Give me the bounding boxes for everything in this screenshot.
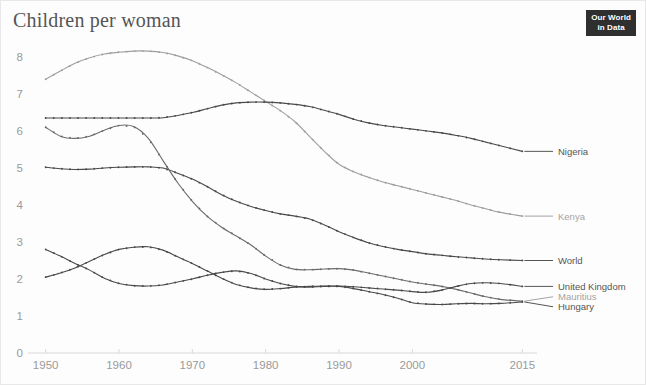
series-point-marker <box>279 213 281 215</box>
series-point-marker <box>182 113 184 115</box>
series-point-marker <box>207 216 209 218</box>
series-point-marker <box>271 102 273 104</box>
series-point-marker <box>150 50 152 52</box>
series-point-marker <box>69 137 71 139</box>
series-label-hungary[interactable]: Hungary <box>558 301 594 312</box>
series-point-marker <box>320 223 322 225</box>
series-point-marker <box>231 103 233 105</box>
series-point-marker <box>215 106 217 108</box>
series-point-marker <box>474 138 476 140</box>
series-point-marker <box>215 274 217 276</box>
series-point-marker <box>385 125 387 127</box>
chart-container: Children per woman Our World in Data 012… <box>0 0 646 385</box>
line-chart-plot: 012345678 1950196019701980199020002015 N… <box>1 1 646 385</box>
series-point-marker <box>85 168 87 170</box>
series-point-marker <box>126 247 128 249</box>
series-point-marker <box>474 205 476 207</box>
series-point-marker <box>198 266 200 268</box>
series-point-marker <box>118 51 120 53</box>
series-point-marker <box>93 133 95 135</box>
series-united-kingdom[interactable] <box>45 246 524 293</box>
series-label-united-kingdom[interactable]: United Kingdom <box>558 281 626 292</box>
series-point-marker <box>279 288 281 290</box>
series-point-marker <box>457 285 459 287</box>
series-point-marker <box>101 117 103 119</box>
y-axis-tick-label: 6 <box>17 125 23 137</box>
series-point-marker <box>296 122 298 124</box>
y-axis-tick-label: 1 <box>17 310 23 322</box>
series-point-marker <box>247 286 249 288</box>
series-point-marker <box>166 116 168 118</box>
series-point-marker <box>223 227 225 229</box>
series-point-marker <box>158 167 160 169</box>
series-point-marker <box>320 147 322 149</box>
series-point-marker <box>263 254 265 256</box>
series-mauritius[interactable] <box>45 125 524 302</box>
series-nigeria[interactable] <box>45 101 524 152</box>
series-point-marker <box>207 186 209 188</box>
series-point-marker <box>45 117 47 119</box>
y-axis-tick-label: 4 <box>17 199 24 211</box>
series-point-marker <box>134 285 136 287</box>
series-point-marker <box>182 57 184 59</box>
series-point-marker <box>457 200 459 202</box>
series-point-marker <box>466 303 468 305</box>
series-point-marker <box>150 141 152 143</box>
series-point-marker <box>401 279 403 281</box>
series-point-marker <box>336 162 338 164</box>
series-point-marker <box>61 135 63 137</box>
series-point-marker <box>174 54 176 56</box>
series-point-marker <box>376 244 378 246</box>
series-point-marker <box>441 286 443 288</box>
series-point-marker <box>328 268 330 270</box>
series-point-marker <box>142 50 144 52</box>
series-point-marker <box>223 271 225 273</box>
series-point-marker <box>239 284 241 286</box>
series-point-marker <box>344 166 346 168</box>
series-point-marker <box>45 126 47 128</box>
series-point-marker <box>304 269 306 271</box>
series-point-marker <box>498 144 500 146</box>
series-kenya[interactable] <box>45 50 524 217</box>
series-point-marker <box>45 166 47 168</box>
series-line-path <box>46 167 523 261</box>
series-point-marker <box>509 213 511 215</box>
series-point-marker <box>190 178 192 180</box>
series-point-marker <box>109 52 111 54</box>
series-point-marker <box>53 274 55 276</box>
series-point-marker <box>498 211 500 213</box>
series-point-marker <box>263 277 265 279</box>
series-point-marker <box>433 254 435 256</box>
series-point-marker <box>466 257 468 259</box>
series-point-marker <box>409 281 411 283</box>
series-point-marker <box>198 182 200 184</box>
series-point-marker <box>77 264 79 266</box>
series-label-leader <box>524 302 553 307</box>
series-world[interactable] <box>45 166 524 262</box>
series-point-marker <box>417 282 419 284</box>
series-point-marker <box>401 127 403 129</box>
series-point-marker <box>449 198 451 200</box>
series-point-marker <box>271 288 273 290</box>
series-point-marker <box>425 303 427 305</box>
series-point-marker <box>231 232 233 234</box>
series-point-marker <box>368 287 370 289</box>
series-point-marker <box>247 272 249 274</box>
series-point-marker <box>263 209 265 211</box>
series-point-marker <box>352 269 354 271</box>
series-point-marker <box>271 105 273 107</box>
series-point-marker <box>69 269 71 271</box>
series-point-marker <box>118 117 120 119</box>
series-point-marker <box>85 268 87 270</box>
series-point-marker <box>385 288 387 290</box>
series-point-marker <box>263 288 265 290</box>
series-label-kenya[interactable]: Kenya <box>558 211 586 222</box>
series-label-nigeria[interactable]: Nigeria <box>558 146 589 157</box>
series-point-marker <box>490 282 492 284</box>
series-point-marker <box>93 56 95 58</box>
series-label-world[interactable]: World <box>558 255 583 266</box>
series-point-marker <box>457 256 459 258</box>
series-point-marker <box>190 112 192 114</box>
series-hungary[interactable] <box>45 248 524 305</box>
series-point-marker <box>521 301 523 303</box>
